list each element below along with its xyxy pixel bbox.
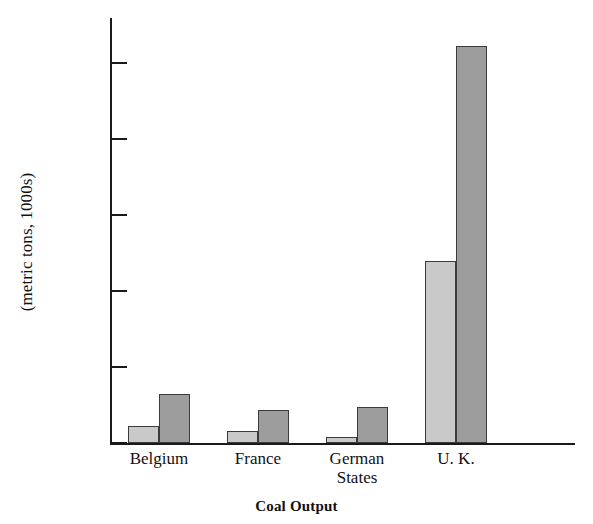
plot-area: 010,00020,00030,00040,00050,000 BelgiumF… [110, 18, 575, 444]
y-tick-mark [112, 214, 127, 216]
y-tick-mark [112, 290, 127, 292]
y-axis-line [110, 18, 112, 444]
y-tick-mark [112, 138, 127, 140]
bar [326, 437, 357, 443]
chart-title: Coal Output [0, 498, 593, 515]
bar [227, 431, 258, 443]
bar [357, 407, 388, 443]
y-tick-mark [112, 62, 127, 64]
y-tick-mark [112, 366, 127, 368]
bar [128, 426, 159, 443]
bar [159, 394, 190, 443]
bar [258, 410, 289, 443]
y-axis-label: (metric tons, 1000s) [17, 137, 37, 347]
x-axis-line [110, 443, 575, 445]
bar [425, 261, 456, 443]
bar [456, 46, 487, 443]
coal-output-bar-chart: (metric tons, 1000s) 010,00020,00030,000… [0, 0, 593, 524]
y-tick-mark [112, 442, 127, 444]
x-category-label: U. K. [396, 449, 516, 468]
